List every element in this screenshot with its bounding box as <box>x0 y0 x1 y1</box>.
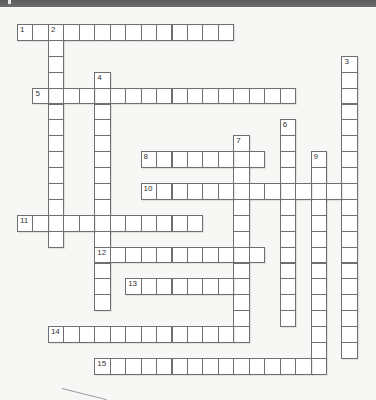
crossword-cell[interactable] <box>311 263 327 280</box>
crossword-cell[interactable] <box>341 263 357 280</box>
crossword-cell[interactable] <box>187 326 203 343</box>
crossword-cell[interactable]: 15 <box>94 358 110 375</box>
crossword-cell[interactable] <box>202 88 218 105</box>
crossword-cell[interactable]: 7 <box>233 135 249 152</box>
crossword-cell[interactable] <box>156 24 172 41</box>
crossword-cell[interactable]: 13 <box>125 278 141 295</box>
crossword-cell[interactable] <box>311 183 327 200</box>
crossword-cell[interactable] <box>48 215 64 232</box>
crossword-cell[interactable] <box>233 263 249 280</box>
crossword-cell[interactable] <box>280 183 296 200</box>
crossword-cell[interactable] <box>48 135 64 152</box>
crossword-cell[interactable] <box>94 119 110 136</box>
crossword-cell[interactable] <box>341 104 357 121</box>
crossword-cell[interactable] <box>94 24 110 41</box>
crossword-cell[interactable] <box>341 247 357 264</box>
crossword-cell[interactable] <box>341 72 357 89</box>
crossword-cell[interactable] <box>233 326 249 343</box>
crossword-cell[interactable] <box>94 167 110 184</box>
crossword-cell[interactable] <box>125 358 141 375</box>
crossword-cell[interactable] <box>172 183 188 200</box>
crossword-cell[interactable] <box>233 167 249 184</box>
crossword-cell[interactable] <box>125 215 141 232</box>
crossword-cell[interactable] <box>311 167 327 184</box>
crossword-cell[interactable] <box>341 151 357 168</box>
crossword-cell[interactable] <box>32 24 48 41</box>
crossword-cell[interactable] <box>48 167 64 184</box>
crossword-cell[interactable] <box>280 294 296 311</box>
crossword-cell[interactable]: 2 <box>48 24 64 41</box>
crossword-cell[interactable]: 6 <box>280 119 296 136</box>
crossword-cell[interactable] <box>94 215 110 232</box>
crossword-cell[interactable] <box>341 167 357 184</box>
crossword-cell[interactable] <box>264 183 280 200</box>
crossword-cell[interactable] <box>280 231 296 248</box>
crossword-cell[interactable] <box>249 183 265 200</box>
crossword-cell[interactable] <box>94 263 110 280</box>
crossword-cell[interactable] <box>79 215 95 232</box>
crossword-cell[interactable] <box>172 326 188 343</box>
crossword-cell[interactable] <box>110 24 126 41</box>
crossword-cell[interactable] <box>94 294 110 311</box>
crossword-cell[interactable] <box>48 231 64 248</box>
crossword-cell[interactable] <box>141 278 157 295</box>
crossword-cell[interactable] <box>280 151 296 168</box>
crossword-cell[interactable] <box>249 358 265 375</box>
crossword-cell[interactable] <box>110 247 126 264</box>
crossword-cell[interactable]: 5 <box>32 88 48 105</box>
crossword-cell[interactable] <box>187 278 203 295</box>
crossword-cell[interactable] <box>202 183 218 200</box>
crossword-cell[interactable] <box>218 326 234 343</box>
crossword-cell[interactable] <box>94 151 110 168</box>
crossword-cell[interactable] <box>249 247 265 264</box>
crossword-cell[interactable] <box>187 358 203 375</box>
crossword-cell[interactable] <box>280 358 296 375</box>
crossword-cell[interactable] <box>141 215 157 232</box>
crossword-cell[interactable] <box>311 231 327 248</box>
crossword-cell[interactable]: 11 <box>17 215 33 232</box>
crossword-cell[interactable] <box>156 215 172 232</box>
crossword-cell[interactable] <box>311 247 327 264</box>
crossword-cell[interactable] <box>156 358 172 375</box>
crossword-cell[interactable] <box>94 278 110 295</box>
crossword-cell[interactable] <box>172 247 188 264</box>
crossword-cell[interactable]: 14 <box>48 326 64 343</box>
crossword-cell[interactable] <box>233 358 249 375</box>
crossword-cell[interactable] <box>63 24 79 41</box>
crossword-cell[interactable] <box>202 278 218 295</box>
crossword-cell[interactable] <box>172 358 188 375</box>
crossword-cell[interactable] <box>187 247 203 264</box>
crossword-cell[interactable] <box>311 278 327 295</box>
crossword-cell[interactable] <box>110 326 126 343</box>
crossword-cell[interactable] <box>125 24 141 41</box>
crossword-cell[interactable] <box>341 135 357 152</box>
crossword-cell[interactable] <box>48 151 64 168</box>
crossword-cell[interactable] <box>202 358 218 375</box>
crossword-cell[interactable] <box>280 135 296 152</box>
crossword-cell[interactable] <box>125 247 141 264</box>
crossword-cell[interactable] <box>94 88 110 105</box>
crossword-cell[interactable] <box>249 88 265 105</box>
crossword-cell[interactable] <box>110 358 126 375</box>
crossword-cell[interactable] <box>94 231 110 248</box>
crossword-cell[interactable] <box>280 215 296 232</box>
crossword-cell[interactable] <box>172 215 188 232</box>
crossword-cell[interactable] <box>32 215 48 232</box>
crossword-cell[interactable] <box>172 151 188 168</box>
crossword-cell[interactable] <box>264 358 280 375</box>
crossword-cell[interactable] <box>311 310 327 327</box>
crossword-cell[interactable] <box>202 151 218 168</box>
crossword-cell[interactable] <box>48 199 64 216</box>
crossword-cell[interactable] <box>218 278 234 295</box>
crossword-cell[interactable] <box>280 310 296 327</box>
crossword-cell[interactable] <box>48 72 64 89</box>
crossword-cell[interactable]: 1 <box>17 24 33 41</box>
crossword-cell[interactable] <box>341 310 357 327</box>
crossword-cell[interactable] <box>202 326 218 343</box>
crossword-cell[interactable] <box>341 199 357 216</box>
crossword-cell[interactable] <box>48 104 64 121</box>
crossword-cell[interactable] <box>63 326 79 343</box>
crossword-cell[interactable] <box>249 151 265 168</box>
crossword-cell[interactable] <box>218 183 234 200</box>
crossword-cell[interactable] <box>187 88 203 105</box>
